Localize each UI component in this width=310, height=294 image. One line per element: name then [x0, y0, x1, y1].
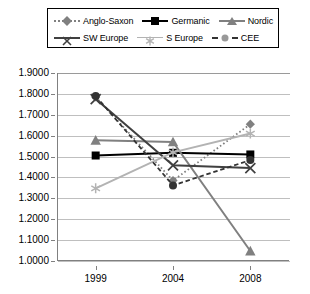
legend-item-sw-europe: SW Europe	[54, 32, 128, 44]
y-axis-tick-label: 1.2000	[18, 214, 49, 224]
data-point-marker	[91, 183, 100, 193]
y-axis-tick	[51, 157, 55, 158]
x-axis-tick-label: 2004	[162, 273, 184, 284]
data-series-layer	[57, 73, 289, 261]
legend-row-1: Anglo-Saxon Germanic Nordic	[52, 12, 274, 29]
x-axis-tick	[173, 266, 174, 270]
data-point-marker	[92, 152, 100, 160]
y-axis-tick-label: 1.8000	[18, 89, 49, 99]
gridline	[58, 261, 290, 262]
legend-label-sw-europe: SW Europe	[83, 33, 128, 43]
chart-legend: Anglo-Saxon Germanic Nordic	[47, 8, 279, 48]
y-axis-tick	[51, 94, 55, 95]
data-point-marker	[246, 156, 254, 164]
y-axis-tick	[51, 177, 55, 178]
legend-label-s-europe: S Europe	[166, 33, 203, 43]
legend-swatch-sw-europe	[54, 32, 80, 44]
y-axis-tick	[51, 240, 55, 241]
x-axis-tick	[96, 266, 97, 270]
legend-swatch-cee	[212, 32, 238, 44]
data-point-marker	[92, 92, 100, 100]
line-chart: Anglo-Saxon Germanic Nordic	[0, 0, 310, 294]
star-marker-icon	[145, 32, 156, 43]
series-sw-europe	[91, 94, 256, 173]
x-axis-tick-label: 1999	[85, 273, 107, 284]
y-axis-tick-label: 1.5000	[18, 152, 49, 162]
legend-label-germanic: Germanic	[171, 16, 209, 26]
y-axis-tick	[51, 136, 55, 137]
x-axis-tick	[250, 266, 251, 270]
legend-label-nordic: Nordic	[248, 16, 273, 26]
y-axis-tick-label: 1.0000	[18, 256, 49, 266]
y-axis-tick	[51, 219, 55, 220]
y-axis-tick-label: 1.6000	[18, 131, 49, 141]
legend-swatch-nordic	[219, 15, 245, 27]
y-axis-tick	[51, 115, 55, 116]
legend-swatch-s-europe	[137, 32, 163, 44]
y-axis-tick-label: 1.4000	[18, 172, 49, 182]
y-axis-tick-label: 1.9000	[18, 68, 49, 78]
y-axis-tick	[51, 198, 55, 199]
series-line	[96, 99, 251, 168]
legend-label-cee: CEE	[241, 33, 259, 43]
legend-swatch-germanic	[142, 15, 168, 27]
y-axis-tick	[51, 261, 55, 262]
legend-item-anglo-saxon: Anglo-Saxon	[54, 15, 133, 27]
legend-item-germanic: Germanic	[142, 15, 209, 27]
legend-swatch-anglo-saxon	[54, 15, 80, 27]
legend-item-nordic: Nordic	[219, 15, 273, 27]
legend-item-cee: CEE	[212, 32, 259, 44]
data-point-marker	[169, 181, 177, 189]
legend-item-s-europe: S Europe	[137, 32, 203, 44]
x-marker-icon	[62, 32, 73, 43]
y-axis-tick-label: 1.1000	[18, 235, 49, 245]
y-axis-labels: 1.90001.80001.70001.60001.50001.40001.30…	[0, 66, 55, 268]
x-axis-labels: 199920042008	[57, 266, 289, 286]
y-axis-tick-label: 1.3000	[18, 193, 49, 203]
y-axis-tick	[51, 73, 55, 74]
legend-row-2: SW Europe S Europe CEE	[52, 29, 274, 46]
x-axis-tick-label: 2008	[239, 273, 261, 284]
legend-label-anglo-saxon: Anglo-Saxon	[83, 16, 133, 26]
y-axis-tick-label: 1.7000	[18, 110, 49, 120]
